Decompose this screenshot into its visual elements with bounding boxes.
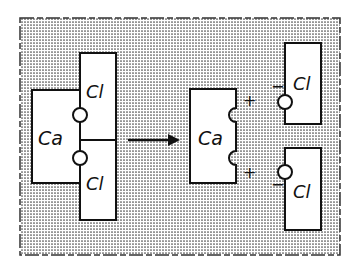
- bonded-calcium-label: Ca: [38, 127, 63, 149]
- negative-charge-top: −: [271, 77, 284, 96]
- chloride-ion-knob-top: [278, 95, 292, 109]
- bond-joint-top: [73, 108, 87, 122]
- bond-joint-bottom: [73, 151, 87, 165]
- positive-charge-bottom: +: [243, 163, 256, 182]
- chloride-ion-label-top: Cl: [293, 73, 311, 94]
- calcium-ion-label: Ca: [198, 127, 223, 149]
- negative-charge-bottom: −: [271, 175, 284, 194]
- ionic-bond-diagram: Ca Cl Cl Ca + + Cl − Cl −: [0, 0, 358, 268]
- chloride-ion-label-bottom: Cl: [293, 181, 311, 202]
- bonded-chlorine-label-top: Cl: [86, 81, 104, 102]
- positive-charge-top: +: [243, 91, 256, 110]
- bonded-chlorine-label-bottom: Cl: [86, 173, 104, 194]
